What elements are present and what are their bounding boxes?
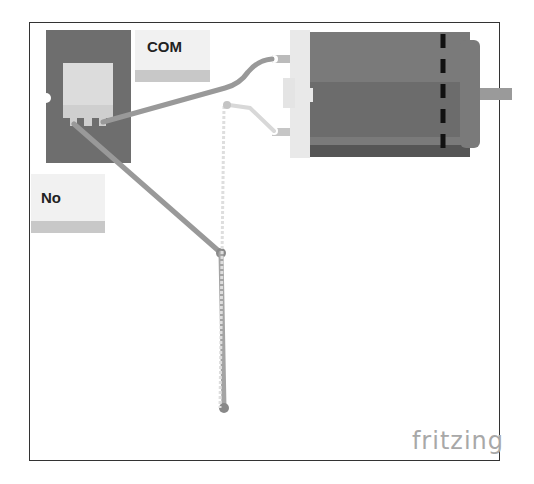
fritzing-watermark: fritzing bbox=[412, 427, 504, 455]
watermark-area: fritzing bbox=[29, 22, 500, 461]
